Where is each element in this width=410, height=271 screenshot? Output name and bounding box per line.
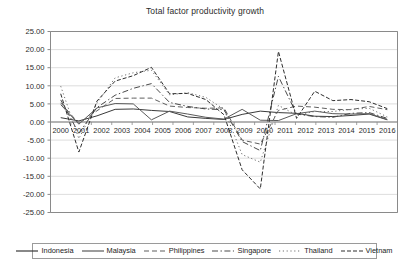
y-axis-tick-labels: 25.0020.0015.0010.005.000.00-5.00-10.00-…: [23, 27, 45, 217]
legend-item-malaysia[interactable]: Malaysia: [78, 247, 140, 255]
chart-plot-area: 25.0020.0015.0010.005.000.00-5.00-10.00-…: [0, 0, 410, 271]
legend-label: Singapore: [237, 247, 271, 254]
legend-item-indonesia[interactable]: Indonesia: [12, 247, 77, 255]
legend-swatch-vietnam: [341, 247, 363, 255]
y-axis-tick-label: 20.00: [25, 45, 44, 54]
x-axis-tick-label: 2007: [195, 126, 211, 135]
x-axis-tick-label: 2016: [379, 126, 395, 135]
y-axis-tick-label: 15.00: [25, 63, 44, 72]
legend-swatch-singapore: [212, 247, 234, 255]
data-series-group: [61, 51, 388, 189]
y-axis-tick-label: 10.00: [25, 82, 44, 91]
legend-swatch-philippines: [144, 247, 166, 255]
series-line-vietnam: [61, 51, 388, 189]
legend-swatch-malaysia: [82, 247, 104, 255]
legend-swatch-thailand: [279, 247, 301, 255]
x-axis-tick-label: 2013: [318, 126, 334, 135]
chart-legend: IndonesiaMalaysiaPhilippinesSingaporeTha…: [32, 243, 377, 259]
y-axis-tick-label: -15.00: [23, 172, 45, 181]
y-axis-tick-label: -25.00: [23, 208, 45, 217]
x-axis-tick-label: 2012: [297, 126, 313, 135]
legend-item-singapore[interactable]: Singapore: [208, 247, 275, 255]
x-axis-tick-label: 2003: [114, 126, 130, 135]
x-axis-tick-label: 2005: [155, 126, 171, 135]
x-axis-tick-label: 2002: [93, 126, 109, 135]
legend-item-thailand[interactable]: Thailand: [275, 247, 336, 255]
x-axis-tick-label: 2000: [52, 126, 68, 135]
y-axis-tick-label: 0.00: [30, 118, 45, 127]
legend-label: Vietnam: [366, 247, 393, 254]
x-axis-tick-label: 2006: [175, 126, 191, 135]
legend-item-philippines[interactable]: Philippines: [140, 247, 209, 255]
y-axis-tick-label: 25.00: [25, 27, 44, 36]
chart-container: Total factor productivity growth 25.0020…: [0, 0, 410, 271]
y-axis-tick-label: 5.00: [30, 100, 45, 109]
x-axis-tick-labels: 2000200120022003200420052006200720082009…: [52, 126, 395, 135]
y-axis-tick-label: -5.00: [27, 136, 44, 145]
legend-label: Thailand: [304, 247, 332, 254]
legend-item-vietnam[interactable]: Vietnam: [337, 247, 397, 255]
y-axis-tick-label: -10.00: [23, 154, 45, 163]
legend-label: Malaysia: [107, 247, 136, 254]
legend-label: Indonesia: [41, 247, 73, 254]
axes-group: [48, 32, 398, 213]
series-line-malaysia: [61, 104, 388, 125]
x-axis-tick-label: 2014: [338, 126, 354, 135]
legend-swatch-indonesia: [16, 247, 38, 255]
x-axis-tick-label: 2011: [277, 126, 293, 135]
x-axis-tick-label: 2015: [359, 126, 375, 135]
y-axis-tick-label: -20.00: [23, 190, 45, 199]
x-axis-tick-label: 2004: [134, 126, 150, 135]
legend-label: Philippines: [169, 247, 205, 254]
x-axis-tick-label: 2008: [216, 126, 232, 135]
